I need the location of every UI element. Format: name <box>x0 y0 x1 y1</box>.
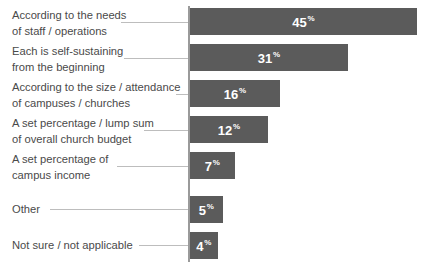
bar-value-number: 4 <box>196 238 203 253</box>
category-label-1-line-1: from the beginning <box>12 60 190 76</box>
category-label-2: According to the size / attendance of ca… <box>12 80 190 111</box>
category-label-6-line-0: Not sure / not applicable <box>12 238 190 254</box>
bar-row: 45% <box>190 8 417 35</box>
category-label-0-line-1: of staff / operations <box>12 24 190 40</box>
bar-value-12: 12% <box>190 116 268 143</box>
category-label-3-line-0: A set percentage / lump sum <box>12 116 190 132</box>
category-label-2-line-0: According to the size / attendance <box>12 80 190 96</box>
category-label-1-line-0: Each is self-sustaining <box>12 44 190 60</box>
percent-sign: % <box>273 50 280 59</box>
bar-value-number: 31 <box>258 50 273 65</box>
category-label-4-line-0: A set percentage of <box>12 152 190 168</box>
bar-value-45: 45% <box>190 8 417 35</box>
bar-value-5: 5% <box>190 196 223 223</box>
bar-label: 7% <box>205 159 220 172</box>
category-label-2-line-1: of campuses / churches <box>12 96 190 112</box>
bar-label: 31% <box>258 51 281 64</box>
bars-plot-area: 45% 31% 16% 12% 7% 5% <box>190 0 432 280</box>
percent-sign: % <box>207 202 214 211</box>
bar-value-7: 7% <box>190 152 235 179</box>
percent-sign: % <box>204 238 211 247</box>
bar-label: 5% <box>199 203 214 216</box>
category-label-5-line-0: Other <box>12 202 190 218</box>
category-label-4-line-1: campus income <box>12 168 190 184</box>
percent-sign: % <box>239 86 246 95</box>
bar-row: 16% <box>190 80 280 107</box>
bar-value-number: 12 <box>218 122 233 137</box>
category-label-5: Other <box>12 202 190 218</box>
bar-row: 7% <box>190 152 235 179</box>
percent-sign: % <box>213 158 220 167</box>
category-label-4: A set percentage of campus income <box>12 152 190 183</box>
bar-value-number: 45 <box>292 14 307 29</box>
percent-sign: % <box>308 14 315 23</box>
bar-label: 45% <box>292 15 315 28</box>
category-label-3-line-1: of overall church budget <box>12 132 190 148</box>
bar-row: 31% <box>190 44 348 71</box>
category-label-0-line-0: According to the needs <box>12 8 190 24</box>
category-label-0: According to the needs of staff / operat… <box>12 8 190 39</box>
percent-sign: % <box>233 122 240 131</box>
bar-label: 4% <box>196 239 211 252</box>
bar-value-number: 7 <box>205 158 212 173</box>
bar-value-16: 16% <box>190 80 280 107</box>
bar-row: 4% <box>190 232 218 259</box>
category-label-1: Each is self-sustaining from the beginni… <box>12 44 190 75</box>
bar-label: 12% <box>218 123 241 136</box>
bar-row: 12% <box>190 116 268 143</box>
category-label-3: A set percentage / lump sum of overall c… <box>12 116 190 147</box>
horizontal-bar-chart: According to the needs of staff / operat… <box>0 0 432 280</box>
bar-row: 5% <box>190 196 223 223</box>
bar-value-31: 31% <box>190 44 348 71</box>
bar-value-4: 4% <box>190 232 218 259</box>
category-label-6: Not sure / not applicable <box>12 238 190 254</box>
bar-value-number: 5 <box>199 202 206 217</box>
bar-value-number: 16 <box>224 86 239 101</box>
bar-label: 16% <box>224 87 247 100</box>
